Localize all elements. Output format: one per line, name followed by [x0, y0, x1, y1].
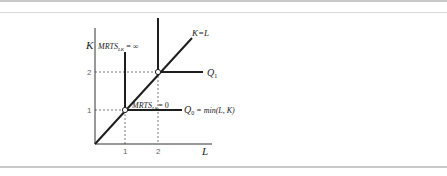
- ray-label: K=L: [191, 28, 209, 38]
- isoquant-q1: [158, 18, 203, 72]
- mrts-infinity-label: MRTSLK = ∞: [97, 42, 139, 52]
- x-axis-label: L: [201, 145, 208, 157]
- mrts-zero-label: MRTSLK= 0: [131, 101, 169, 111]
- isoquant-diagram: K L 2 1 1 2 K=L Q1 Q0 = min(L, K) MRTSLK…: [0, 0, 447, 176]
- y-tick-1: 1: [87, 106, 92, 115]
- x-tick-1: 1: [123, 147, 128, 156]
- q0-label: Q0 = min(L, K): [184, 104, 235, 116]
- y-axis-label: K: [85, 39, 94, 51]
- q1-label: Q1: [207, 67, 217, 79]
- expansion-ray: [95, 38, 192, 144]
- corner-point-q1: [155, 69, 160, 74]
- y-tick-2: 2: [87, 68, 92, 77]
- corner-point-q0: [122, 107, 127, 112]
- x-tick-2: 2: [156, 147, 161, 156]
